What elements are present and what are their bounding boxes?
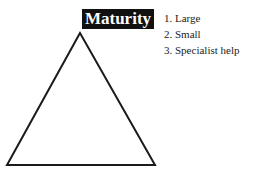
list-item-small: 2. Small bbox=[164, 26, 239, 42]
triangle-outline bbox=[7, 33, 155, 165]
list-item-large: 1. Large bbox=[164, 10, 239, 26]
maturity-list: 1. Large 2. Small 3. Specialist help bbox=[164, 10, 239, 58]
maturity-title: Maturity bbox=[82, 9, 154, 29]
list-item-specialist-help: 3. Specialist help bbox=[164, 42, 239, 58]
